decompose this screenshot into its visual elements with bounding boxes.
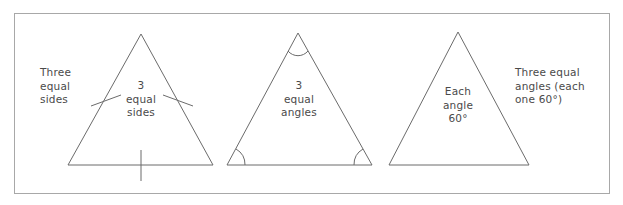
label-triangle3-center: Each angle 60° (428, 85, 488, 126)
angle-arc-bottom-right (354, 149, 363, 165)
label-triangle1-center: 3 equal sides (110, 79, 172, 120)
label-three-equal-angles: Three equal angles (each one 60°) (515, 66, 611, 107)
angle-arc-bottom-left (236, 149, 245, 165)
label-three-equal-sides: Three equal sides (40, 66, 104, 107)
label-triangle2-center: 3 equal angles (268, 79, 330, 120)
angle-arc-apex (288, 51, 308, 56)
figure-page: Three equal sides 3 equal sides 3 equal … (0, 0, 623, 205)
